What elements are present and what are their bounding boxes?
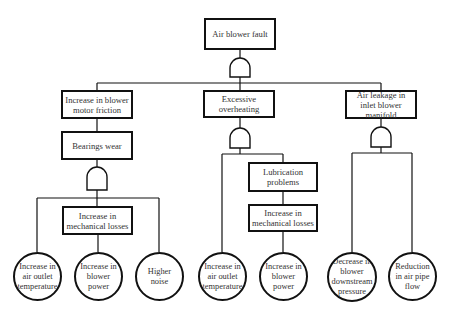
- and-gate-icon-overheating: [230, 128, 250, 148]
- event-label: Increase in blower power: [262, 262, 305, 292]
- event-box-lubrication-problems: Lubrication problems: [248, 162, 318, 192]
- and-gate-icon-leakage: [371, 127, 391, 147]
- event-label: Decrease in blower downstream pressure: [330, 257, 374, 297]
- event-box-air-leakage: Air leakage in inlet blower manifold: [345, 90, 417, 119]
- and-gate-icon-bearings: [87, 167, 107, 190]
- basic-event-air-pipe-flow: Reduction in air pipe flow: [388, 252, 437, 301]
- event-label: Excessive overheating: [207, 94, 271, 114]
- top-event-label: Air blower fault: [212, 29, 267, 39]
- basic-event-higher-noise: Higher noise: [135, 252, 184, 301]
- fault-tree-diagram: Air blower fault Increase in blower moto…: [0, 0, 450, 313]
- event-label: Increase in mechanical losses: [252, 208, 314, 228]
- event-label: Bearings wear: [72, 141, 121, 151]
- basic-event-downstream-pressure: Decrease in blower downstream pressure: [327, 252, 377, 302]
- event-label: Increase in air outlet temperature: [16, 262, 59, 292]
- basic-event-air-outlet-temperature-1: Increase in air outlet temperature: [13, 252, 62, 301]
- event-box-excessive-overheating: Excessive overheating: [203, 90, 275, 118]
- event-box-blower-motor-friction: Increase in blower motor friction: [61, 90, 133, 119]
- basic-event-blower-power-2: Increase in blower power: [259, 252, 308, 301]
- top-event-box: Air blower fault: [204, 18, 276, 50]
- event-box-mechanical-losses-1: Increase in mechanical losses: [62, 206, 133, 235]
- event-label: Air leakage in inlet blower manifold: [349, 90, 413, 120]
- event-box-bearings-wear: Bearings wear: [61, 131, 133, 160]
- basic-event-air-outlet-temperature-2: Increase in air outlet temperature: [198, 252, 247, 301]
- event-label: Increase in mechanical losses: [66, 211, 129, 231]
- basic-event-blower-power-1: Increase in blower power: [74, 252, 123, 301]
- event-label: Increase in air outlet temperature: [201, 262, 244, 292]
- event-label: Lubrication problems: [252, 167, 314, 187]
- and-gate-icon-top: [230, 58, 250, 77]
- event-label: Increase in blower motor friction: [65, 95, 129, 115]
- event-label: Increase in blower power: [77, 262, 120, 292]
- event-label: Higher noise: [138, 267, 181, 287]
- event-box-mechanical-losses-2: Increase in mechanical losses: [248, 204, 318, 232]
- event-label: Reduction in air pipe flow: [391, 262, 434, 292]
